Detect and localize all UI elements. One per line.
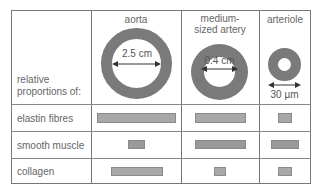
smooth-muscle-medium-artery-bar (195, 140, 246, 149)
aorta-diameter-label: 2.5 cm (113, 48, 161, 59)
arteriole-diameter-arrow-icon (268, 81, 301, 89)
row-divider (11, 158, 311, 159)
row-header-line-2: proportions of: (17, 86, 81, 97)
medium-artery-diameter-label: 0.4 cm (201, 55, 238, 66)
column-header-arteriole: arteriole (259, 14, 311, 25)
aorta-diameter-arrow-icon (112, 60, 161, 68)
collagen-aorta-bar (111, 167, 163, 176)
column-header-aorta: aorta (91, 14, 181, 25)
row-label-collagen: collagen (17, 166, 54, 177)
row-divider (11, 131, 311, 132)
smooth-muscle-arteriole-bar (271, 140, 299, 149)
elastin-aorta-bar (97, 113, 176, 123)
arteriole-cross-section-icon (268, 48, 301, 81)
medium-artery-diameter-arrow-icon (201, 65, 238, 73)
row-label-smooth-muscle: smooth muscle (17, 140, 84, 151)
row-divider (11, 104, 311, 105)
arteriole-diameter-label: 30 µm (268, 89, 301, 100)
row-label-elastin: elastin fibres (17, 113, 73, 124)
elastin-arteriole-bar (278, 113, 292, 123)
elastin-medium-artery-bar (195, 113, 246, 123)
row-header-line-1: relative (17, 74, 49, 85)
column-header-medium-artery-line-2: sized artery (181, 24, 259, 35)
collagen-medium-artery-bar (214, 167, 226, 176)
column-header-medium-artery-line-1: medium- (181, 13, 259, 24)
collagen-arteriole-bar (278, 167, 292, 176)
smooth-muscle-aorta-bar (128, 140, 145, 149)
